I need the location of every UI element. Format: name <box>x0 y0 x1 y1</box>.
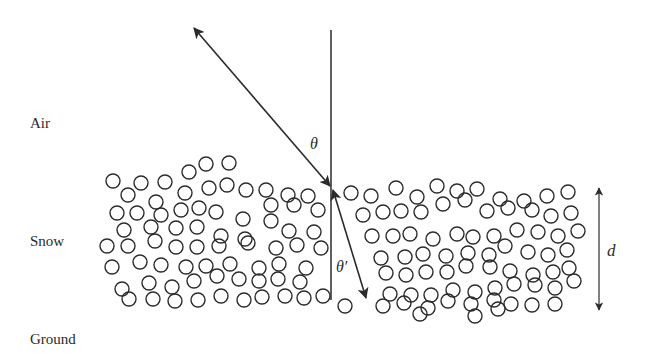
snow-grain-circle <box>560 243 574 257</box>
snow-grain-circle <box>491 302 505 316</box>
snow-grain-circle <box>344 186 358 200</box>
snow-grain-circle <box>548 297 562 311</box>
snow-grain-circle <box>168 294 182 308</box>
snow-grain-circle <box>264 198 278 212</box>
snow-grain-circle <box>436 197 450 211</box>
snow-grain-circle <box>441 294 455 308</box>
snow-grain-circle <box>430 179 444 193</box>
snow-grain-circle <box>169 240 183 254</box>
snow-grain-circle <box>106 174 120 188</box>
snow-grain-circle <box>287 198 301 212</box>
snow-grain-circle <box>487 229 501 243</box>
snow-grain-circle <box>364 189 378 203</box>
snow-grain-circle <box>236 212 250 226</box>
snow-grain-circle <box>424 288 438 302</box>
snow-depth-label: d <box>607 241 616 260</box>
snow-grain-circle <box>105 260 119 274</box>
snow-grain-circle <box>232 272 246 286</box>
snow-grain-circle <box>190 240 204 254</box>
snow-grain-circle <box>269 241 283 255</box>
snow-grain-circle <box>110 206 124 220</box>
snow-grain-circle <box>521 245 535 259</box>
snow-grain-circle <box>272 257 286 271</box>
snow-grain-circle <box>544 209 558 223</box>
snow-grain-circle <box>458 193 472 207</box>
snow-grain-circle <box>290 238 304 252</box>
snow-grain-circle <box>169 221 183 235</box>
snow-grain-circle <box>517 194 531 208</box>
snow-grain-circle <box>148 234 162 248</box>
snow-grain-circle <box>446 283 460 297</box>
snow-grain-circle <box>416 247 430 261</box>
snow-grain-circle <box>561 185 575 199</box>
snow-grain-circle <box>410 190 424 204</box>
snow-grain-circle <box>122 292 136 306</box>
snow-grain-circle <box>149 195 163 209</box>
snow-grain-circle <box>202 181 216 195</box>
snow-grain-circle <box>301 189 315 203</box>
snow-grain-circle <box>154 258 168 272</box>
snow-grain-circle <box>525 298 539 312</box>
snow-refraction-diagram: Air Snow Ground θ θ′ d <box>0 0 651 354</box>
snow-grain-circle <box>461 246 475 260</box>
snow-grain-circle <box>239 183 253 197</box>
snow-grain-circle <box>187 274 201 288</box>
snow-grain-circle <box>501 201 515 215</box>
snow-grain-circle <box>271 272 285 286</box>
snow-grain-circle <box>144 220 158 234</box>
snow-grain-circle <box>525 203 539 217</box>
snow-grain-circle <box>316 289 330 303</box>
snow-grain-circle <box>299 261 313 275</box>
snow-grain-circle <box>498 239 512 253</box>
refracted-ray-arrow <box>333 190 366 298</box>
snow-grain-circle <box>117 223 131 237</box>
snow-grain-circle <box>394 204 408 218</box>
air-label: Air <box>30 115 50 131</box>
snow-grain-circle <box>440 265 454 279</box>
snow-grain-circle <box>281 188 295 202</box>
snow-grain-circle <box>255 290 269 304</box>
snow-grain-circle <box>178 186 192 200</box>
snow-grain-circle <box>192 201 206 215</box>
snow-grain-circle <box>293 275 307 289</box>
snow-grain-circle <box>398 250 412 264</box>
snow-grain-circle <box>439 249 453 263</box>
snow-label: Snow <box>30 233 64 249</box>
snow-grain-circle <box>210 269 224 283</box>
snow-grain-circle <box>376 205 390 219</box>
snow-grain-circle <box>386 229 400 243</box>
snow-grain-circle <box>130 206 144 220</box>
snow-grain-circle <box>338 299 352 313</box>
snow-grain-circle <box>297 291 311 305</box>
snow-grain-circle <box>134 176 148 190</box>
snow-grain-circle <box>374 251 388 265</box>
snow-grain-circle <box>379 266 393 280</box>
snow-grain-circle <box>142 276 156 290</box>
snow-grain-circle <box>459 259 473 273</box>
snow-grain-circle <box>238 232 252 246</box>
snow-grain-circle <box>165 280 179 294</box>
snow-grain-circle <box>504 297 518 311</box>
snow-grain-circle <box>546 265 560 279</box>
snow-grain-circle <box>222 156 236 170</box>
snow-grain-circle <box>220 178 234 192</box>
snow-grain-circle <box>450 184 464 198</box>
snow-grain-circle <box>214 229 228 243</box>
snow-grain-circle <box>548 281 562 295</box>
snow-grain-circle <box>426 232 440 246</box>
refraction-angle-label: θ′ <box>336 258 348 275</box>
snow-grain-circle <box>507 277 521 291</box>
snow-grain-circle <box>450 227 464 241</box>
snow-grain-circle <box>551 229 565 243</box>
snow-grain-circle <box>191 293 205 307</box>
snow-grain-circle <box>403 227 417 241</box>
snow-grain-circle <box>356 208 370 222</box>
incidence-angle-label: θ <box>310 135 318 152</box>
snow-grain-circle <box>199 157 213 171</box>
snow-grain-circle <box>241 236 255 250</box>
snow-grain-circle <box>121 188 135 202</box>
snow-grain-circle <box>174 203 188 217</box>
snow-grain-circle <box>190 220 204 234</box>
snow-grain-circle <box>199 259 213 273</box>
snow-grain-circle <box>264 214 278 228</box>
